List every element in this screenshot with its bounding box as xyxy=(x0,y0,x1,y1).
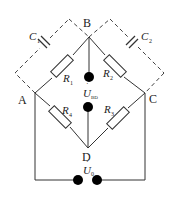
svg-text:R: R xyxy=(103,103,111,115)
node-label-a: A xyxy=(18,93,27,107)
terminal-u0-left xyxy=(73,175,83,185)
svg-text:BD: BD xyxy=(91,95,98,100)
node-label-c: C xyxy=(149,92,157,106)
capacitor-c2 xyxy=(126,36,138,48)
svg-text:2: 2 xyxy=(149,38,152,44)
svg-text:C: C xyxy=(29,30,37,42)
svg-text:4: 4 xyxy=(69,112,72,118)
svg-text:2: 2 xyxy=(110,75,113,81)
label-ubd: · U BD xyxy=(83,79,98,100)
svg-text:1: 1 xyxy=(37,38,40,44)
label-c1: C 1 xyxy=(29,30,40,44)
svg-text:0: 0 xyxy=(91,171,94,177)
svg-text:R: R xyxy=(61,104,69,116)
circuit-diagram: B A C D C 1 C 2 R 1 R 2 R 4 R 3 · U BD ·… xyxy=(0,0,176,204)
resistor-r1 xyxy=(51,55,74,78)
svg-text:1: 1 xyxy=(70,80,73,86)
svg-text:R: R xyxy=(102,67,110,79)
svg-text:C: C xyxy=(141,30,149,42)
terminal-ubd-bottom xyxy=(83,102,93,112)
label-c2: C 2 xyxy=(141,30,152,44)
node-label-b: B xyxy=(83,16,91,30)
label-r1: R 1 xyxy=(62,72,73,86)
label-r3: R 3 xyxy=(103,103,114,117)
svg-text:R: R xyxy=(62,72,70,84)
label-r2: R 2 xyxy=(102,67,113,81)
label-r4: R 4 xyxy=(61,104,72,118)
svg-text:3: 3 xyxy=(111,111,114,117)
